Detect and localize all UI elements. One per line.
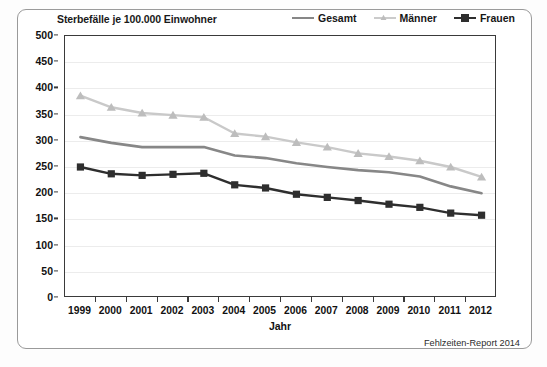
y-tick-mark [54,34,58,35]
data-point-marker [169,171,176,178]
y-tick-mark [54,61,58,62]
x-tick-mark [218,297,219,302]
legend-label-frauen: Frauen [480,12,515,24]
x-axis-tick-labels: 1999200020012002200320042005200620072008… [64,297,496,317]
series-line-gesamt [80,137,481,193]
y-tick-mark [54,270,58,271]
y-tick-label: 400 [35,81,53,93]
x-tick-label: 2011 [439,305,461,316]
figure-canvas: Sterbefälle je 100.000 Einwohner Gesamt … [0,0,547,367]
x-tick-mark [403,297,404,302]
footer-source-note: Fehlzeiten-Report 2014 [424,338,520,348]
data-point-marker [478,212,485,219]
data-point-marker [385,201,392,208]
x-tick-label: 1999 [68,305,91,316]
legend-item-maenner: Männer [374,12,437,24]
data-point-marker [231,181,238,188]
y-tick-label: 150 [35,212,53,224]
x-tick-mark [249,297,250,302]
plot-area [64,35,496,297]
y-tick-label: 50 [41,265,53,277]
x-tick-label: 2002 [161,305,184,316]
x-tick-mark [434,297,435,302]
legend-item-gesamt: Gesamt [292,12,357,24]
y-tick-mark [54,139,58,140]
x-tick-mark [95,297,96,302]
x-tick-mark [157,297,158,302]
x-tick-label: 2008 [346,305,369,316]
y-tick-label: 200 [35,186,53,198]
data-point-marker [108,170,115,177]
legend-swatch-triangle-icon [374,13,396,24]
y-tick-label: 350 [35,108,53,120]
legend-item-frauen: Frauen [454,12,515,24]
x-tick-label: 2005 [253,305,276,316]
y-tick-mark [54,296,58,297]
y-tick-label: 100 [35,239,53,251]
y-tick-label: 300 [35,134,53,146]
chart-legend: Gesamt Männer Frauen [292,12,515,24]
y-tick-mark [54,87,58,88]
x-axis-label: Jahr [64,320,496,332]
data-point-marker [355,197,362,204]
data-point-marker [200,170,207,177]
y-tick-mark [54,113,58,114]
data-point-marker [416,204,423,211]
legend-label-gesamt: Gesamt [318,12,357,24]
x-tick-mark [280,297,281,302]
y-tick-mark [54,244,58,245]
x-tick-mark [311,297,312,302]
y-tick-label: 450 [35,55,53,67]
y-tick-mark [54,165,58,166]
y-tick-label: 500 [35,29,53,41]
y-tick-label: 250 [35,160,53,172]
data-point-marker [262,184,269,191]
y-tick-mark [54,218,58,219]
x-tick-mark [187,297,188,302]
series-line-männer [80,96,481,177]
data-point-marker [139,172,146,179]
x-tick-mark [465,297,466,302]
x-tick-label: 2006 [284,305,307,316]
x-tick-label: 2007 [315,305,338,316]
chart-title: Sterbefälle je 100.000 Einwohner [57,13,217,25]
x-tick-label: 2009 [377,305,400,316]
legend-swatch-square-icon [454,13,476,24]
x-tick-mark [126,297,127,302]
x-tick-label: 2012 [469,305,492,316]
data-point-marker [293,191,300,198]
y-tick-label: 0 [47,291,53,303]
legend-swatch-line-icon [292,13,314,24]
legend-label-maenner: Männer [400,12,437,24]
x-tick-label: 2000 [99,305,122,316]
data-point-marker [76,91,85,99]
x-tick-mark [342,297,343,302]
y-tick-mark [54,192,58,193]
data-point-marker [77,163,84,170]
data-point-marker [324,194,331,201]
x-tick-label: 2010 [407,305,430,316]
series-layer [65,36,497,298]
x-tick-label: 2001 [130,305,153,316]
x-tick-label: 2003 [191,305,214,316]
x-tick-mark [373,297,374,302]
x-tick-label: 2004 [222,305,245,316]
data-point-marker [447,210,454,217]
y-axis-tick-labels: 050100150200250300350400450500 [0,35,58,297]
